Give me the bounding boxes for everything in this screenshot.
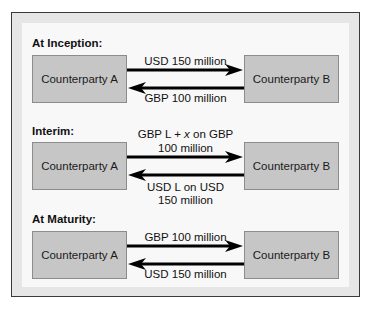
counterparty-b-box-interim: Counterparty B — [244, 142, 339, 190]
flow-label-b-to-a-interim-line2: 150 million — [127, 193, 244, 207]
section-label-interim: Interim: — [32, 125, 74, 137]
counterparty-b-box-inception: Counterparty B — [244, 55, 339, 103]
counterparty-a-box-interim: Counterparty A — [32, 142, 127, 190]
counterparty-b-box-maturity: Counterparty B — [244, 231, 339, 279]
flow-label-b-to-a-interim-line1: USD L on USD — [127, 180, 244, 194]
arrow-right-icon — [127, 240, 244, 252]
counterparty-a-box-inception: Counterparty A — [32, 55, 127, 103]
section-label-maturity: At Maturity: — [32, 213, 96, 225]
section-label-inception: At Inception: — [32, 37, 102, 49]
arrow-right-icon — [127, 64, 244, 76]
counterparty-a-box-maturity: Counterparty A — [32, 231, 127, 279]
flow-label-a-to-b-interim-line1: GBP L + x on GBP — [127, 127, 244, 141]
italic-x-symbol: x — [184, 128, 190, 140]
flow-label-b-to-a-inception: GBP 100 million — [127, 91, 244, 105]
flow-label-b-to-a-maturity: USD 150 million — [127, 267, 244, 281]
arrow-right-icon — [127, 151, 244, 163]
